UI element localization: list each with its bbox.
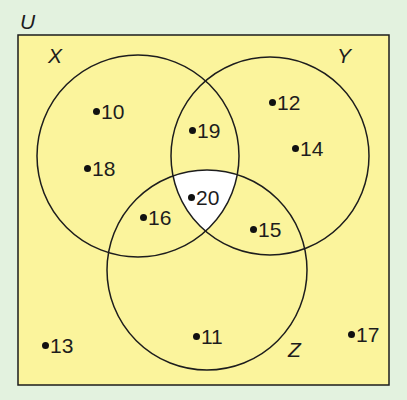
element-19: 19	[189, 120, 220, 141]
dot-icon	[189, 127, 196, 134]
element-value: 14	[300, 138, 323, 159]
element-12: 12	[269, 92, 300, 113]
element-value: 15	[258, 219, 281, 240]
element-value: 13	[50, 335, 73, 356]
element-14: 14	[292, 138, 323, 159]
dot-icon	[84, 165, 91, 172]
element-value: 17	[356, 324, 379, 345]
dot-icon	[188, 194, 195, 201]
dot-icon	[42, 342, 49, 349]
element-20: 20	[188, 187, 219, 208]
element-value: 19	[197, 120, 220, 141]
venn-diagram: U X Y Z 10 18 12 14 19 20 16 15 11 13 17	[0, 0, 407, 400]
element-value: 10	[101, 101, 124, 122]
element-13: 13	[42, 335, 73, 356]
element-value: 16	[148, 207, 171, 228]
element-value: 20	[196, 187, 219, 208]
universal-set-label: U	[20, 11, 35, 32]
element-16: 16	[140, 207, 171, 228]
dot-icon	[269, 99, 276, 106]
element-11: 11	[193, 326, 223, 347]
dot-icon	[193, 333, 200, 340]
element-value: 12	[277, 92, 300, 113]
element-17: 17	[348, 324, 379, 345]
element-10: 10	[93, 101, 124, 122]
element-15: 15	[250, 219, 281, 240]
set-z-label: Z	[288, 339, 301, 360]
dot-icon	[140, 214, 147, 221]
element-value: 11	[201, 326, 223, 347]
dot-icon	[292, 145, 299, 152]
dot-icon	[250, 226, 257, 233]
element-value: 18	[92, 158, 115, 179]
element-18: 18	[84, 158, 115, 179]
dot-icon	[348, 331, 355, 338]
set-x-label: X	[48, 45, 62, 66]
dot-icon	[93, 108, 100, 115]
set-y-label: Y	[337, 45, 351, 66]
